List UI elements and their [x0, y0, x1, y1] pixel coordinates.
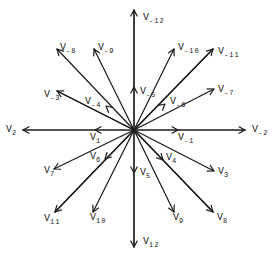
vector-diagram [0, 0, 277, 254]
vector-label-subscript: -10 [184, 47, 200, 55]
vector-label: V8 [217, 213, 228, 226]
vector-label: V-11 [218, 47, 240, 60]
vector-label: V-7 [218, 85, 234, 98]
vector-label: V6 [90, 152, 101, 165]
vector-label: V-9 [98, 43, 114, 56]
vector-label-subscript: 6 [96, 156, 101, 164]
vector-label: V5 [140, 168, 151, 181]
vector-label-subscript: 3 [224, 171, 229, 179]
vector-arrow-v1 [23, 127, 134, 133]
vector-label: V-2 [252, 125, 268, 138]
vector-arrow-v5 [131, 130, 137, 247]
vector-label-subscript: -5 [146, 91, 156, 99]
vector-label: V-10 [178, 43, 200, 56]
vector-label-subscript: -12 [149, 17, 165, 25]
vector-label: V7 [44, 166, 55, 179]
vector-label-subscript: -4 [91, 101, 101, 109]
vector-label-subscript: 12 [149, 241, 159, 249]
vector-label: V9 [173, 213, 184, 226]
vector-label: V-3 [44, 90, 60, 103]
vector-label: V2 [6, 125, 17, 138]
vector-label-subscript: -8 [66, 47, 76, 55]
vector-label: V-8 [60, 43, 76, 56]
vector-label-subscript: -9 [104, 47, 114, 55]
vector-label-subscript: 8 [223, 217, 228, 225]
vector-label: V4 [166, 153, 177, 166]
vector-label-subscript: -7 [224, 89, 234, 97]
vector-label: V-5 [140, 87, 156, 100]
vector-label: V12 [143, 237, 159, 250]
vector-label-subscript: 1 [96, 137, 101, 145]
vector-label-subscript: -2 [258, 129, 268, 137]
vector-label: V-12 [143, 13, 165, 26]
vector-arrow-vneg8 [57, 49, 134, 130]
vector-label: V1 [90, 133, 101, 146]
vector-label: V3 [218, 167, 229, 180]
vector-arrow-vneg5 [131, 10, 137, 130]
vector-label-subscript: -6 [176, 101, 186, 109]
vector-label: V-4 [85, 97, 101, 110]
arrowhead-icon [158, 104, 165, 110]
arrowhead-icon [105, 152, 112, 159]
vector-label-subscript: 5 [146, 172, 151, 180]
vector-label-subscript: 7 [50, 170, 55, 178]
vector-label-subscript: 11 [50, 218, 60, 226]
vector-label: V10 [90, 213, 106, 226]
vector-label-subscript: -3 [50, 94, 60, 102]
vector-arrow-vneg9 [94, 49, 134, 130]
vector-lines [23, 10, 245, 247]
vector-label-subscript: -1 [184, 137, 194, 145]
vector-label: V-1 [178, 133, 194, 146]
arrowhead-icon [106, 106, 113, 112]
vector-label: V-6 [170, 97, 186, 110]
vector-label-subscript: -11 [224, 51, 240, 59]
vector-label: V11 [44, 214, 60, 227]
vector-label-subscript: 2 [12, 129, 17, 137]
vector-label-subscript: 4 [172, 157, 177, 165]
vector-label-subscript: 9 [179, 217, 184, 225]
vector-label-subscript: 10 [96, 217, 106, 225]
